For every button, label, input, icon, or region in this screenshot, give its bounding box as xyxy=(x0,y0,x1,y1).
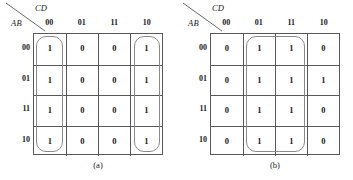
karnaugh-map-figure: CD AB 00 01 11 10 00 01 11 10 1 0 0 1 1 … xyxy=(0,0,353,180)
caption-b: (b) xyxy=(210,160,340,170)
cell-b-r0-c1: 1 xyxy=(243,34,275,65)
cell-b-r3-c0: 0 xyxy=(211,127,243,157)
cell-a-r3-c3: 1 xyxy=(130,127,162,157)
cell-a-r1-c1: 0 xyxy=(66,66,98,96)
table-row: 1 0 0 1 xyxy=(34,95,162,126)
karnaugh-grid-b: 0 1 1 0 0 1 1 1 0 1 1 0 0 1 1 0 xyxy=(210,33,340,155)
cd-axis-label-a: CD xyxy=(35,3,47,13)
row-header-00-a: 00 xyxy=(8,33,30,64)
caption-a: (a) xyxy=(33,160,163,170)
cell-a-r2-c2: 0 xyxy=(98,96,130,126)
column-headers-a: 00 01 11 10 xyxy=(33,16,163,30)
table-row: 1 0 0 1 xyxy=(34,126,162,157)
cell-a-r0-c3: 1 xyxy=(130,34,162,65)
cell-a-r1-c2: 0 xyxy=(98,66,130,96)
cell-a-r0-c0: 1 xyxy=(34,34,66,65)
column-header-11-a: 11 xyxy=(98,16,131,30)
karnaugh-map-a: CD AB 00 01 11 10 00 01 11 10 1 0 0 1 1 … xyxy=(0,0,176,180)
cell-b-r1-c1: 1 xyxy=(243,66,275,96)
cell-a-r3-c0: 1 xyxy=(34,127,66,157)
cell-a-r1-c3: 1 xyxy=(130,66,162,96)
row-header-01-b: 01 xyxy=(185,64,207,95)
cell-b-r3-c1: 1 xyxy=(243,127,275,157)
cell-a-r2-c0: 1 xyxy=(34,96,66,126)
cell-b-r1-c0: 0 xyxy=(211,66,243,96)
table-row: 0 1 1 0 xyxy=(211,34,339,65)
karnaugh-grid-a: 1 0 0 1 1 0 0 1 1 0 0 1 1 0 0 1 xyxy=(33,33,163,155)
column-header-00-b: 00 xyxy=(210,16,243,30)
cd-axis-label-b: CD xyxy=(212,3,224,13)
row-header-01-a: 01 xyxy=(8,64,30,95)
cell-a-r3-c1: 0 xyxy=(66,127,98,157)
cell-a-r0-c1: 0 xyxy=(66,34,98,65)
row-header-10-b: 10 xyxy=(185,125,207,156)
karnaugh-map-b: CD AB 00 01 11 10 00 01 11 10 0 1 1 0 0 … xyxy=(177,0,353,180)
table-row: 0 1 1 0 xyxy=(211,126,339,157)
cell-a-r2-c3: 1 xyxy=(130,96,162,126)
cell-b-r2-c2: 1 xyxy=(275,96,307,126)
ab-axis-label-a: AB xyxy=(11,18,22,28)
cell-b-r0-c3: 0 xyxy=(307,34,339,65)
table-row: 1 0 0 1 xyxy=(34,34,162,65)
column-header-00-a: 00 xyxy=(33,16,66,30)
table-row: 0 1 1 0 xyxy=(211,95,339,126)
cell-b-r2-c3: 0 xyxy=(307,96,339,126)
column-header-10-a: 10 xyxy=(131,16,164,30)
cell-b-r2-c1: 1 xyxy=(243,96,275,126)
ab-axis-label-b: AB xyxy=(188,18,199,28)
cell-b-r3-c2: 1 xyxy=(275,127,307,157)
cell-b-r2-c0: 0 xyxy=(211,96,243,126)
table-row: 0 1 1 1 xyxy=(211,65,339,96)
column-header-11-b: 11 xyxy=(275,16,308,30)
cell-a-r1-c0: 1 xyxy=(34,66,66,96)
cell-b-r3-c3: 0 xyxy=(307,127,339,157)
cell-b-r1-c2: 1 xyxy=(275,66,307,96)
row-header-11-a: 11 xyxy=(8,94,30,125)
cell-b-r0-c0: 0 xyxy=(211,34,243,65)
row-headers-a: 00 01 11 10 xyxy=(8,33,30,155)
row-headers-b: 00 01 11 10 xyxy=(185,33,207,155)
cell-b-r0-c2: 1 xyxy=(275,34,307,65)
row-header-11-b: 11 xyxy=(185,94,207,125)
column-header-10-b: 10 xyxy=(308,16,341,30)
row-header-00-b: 00 xyxy=(185,33,207,64)
column-header-01-b: 01 xyxy=(243,16,276,30)
cell-a-r3-c2: 0 xyxy=(98,127,130,157)
row-header-10-a: 10 xyxy=(8,125,30,156)
cell-a-r2-c1: 0 xyxy=(66,96,98,126)
cell-b-r1-c3: 1 xyxy=(307,66,339,96)
column-header-01-a: 01 xyxy=(66,16,99,30)
column-headers-b: 00 01 11 10 xyxy=(210,16,340,30)
cell-a-r0-c2: 0 xyxy=(98,34,130,65)
table-row: 1 0 0 1 xyxy=(34,65,162,96)
